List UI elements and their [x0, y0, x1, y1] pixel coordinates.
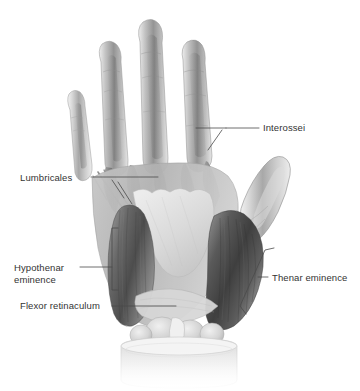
label-interossei: Interossei: [263, 122, 305, 133]
hand-illustration: [68, 19, 291, 391]
anatomy-illustration: Interossei Lumbricales Hypothenar eminen…: [0, 0, 360, 391]
thenar-eminence-muscle: [206, 210, 264, 330]
label-thenar-eminence: Thenar eminence: [272, 272, 347, 283]
label-flexor-retinaculum: Flexor retinaculum: [20, 300, 100, 311]
index-finger: [182, 40, 212, 172]
hand-anatomy-figure: Interossei Lumbricales Hypothenar eminen…: [0, 0, 360, 391]
label-lumbricales: Lumbricales: [20, 172, 72, 183]
label-hypothenar-eminence-line2: eminence: [14, 274, 56, 285]
ring-finger: [99, 41, 128, 176]
middle-finger: [139, 19, 169, 174]
label-hypothenar-eminence-line1: Hypothenar: [14, 262, 64, 273]
little-finger: [68, 90, 92, 180]
